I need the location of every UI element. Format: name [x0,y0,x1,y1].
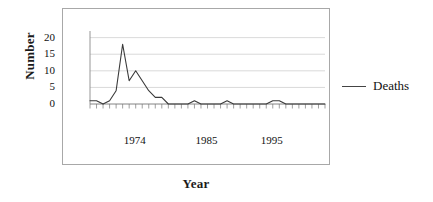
x-tick-1974: 1974 [115,134,155,146]
y-tick-0: 0 [33,98,55,109]
legend-line-swatch [342,86,366,87]
chart-legend: Deaths [342,78,409,94]
gridlines [90,38,325,104]
y-axis-title: Number [22,20,38,92]
x-tick-1985: 1985 [187,134,227,146]
x-tick-marks [90,104,325,109]
x-axis-title: Year [156,176,236,192]
legend-label-deaths: Deaths [373,78,409,94]
series-line-deaths [90,44,325,104]
x-tick-1995: 1995 [252,134,292,146]
